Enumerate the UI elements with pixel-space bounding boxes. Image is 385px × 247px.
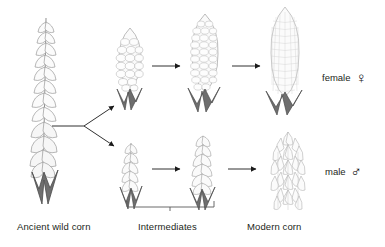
ear-husk-stage2 — [188, 87, 220, 112]
ear-husk-stage1 — [117, 88, 142, 110]
intermediates-bracket — [126, 200, 218, 212]
modern-tassel — [262, 130, 314, 214]
modern-ear — [258, 5, 312, 117]
male-label-text: male — [325, 166, 346, 177]
mars-male-symbol-icon: ♂ — [351, 164, 362, 179]
female-label-text: female — [322, 72, 351, 83]
intermediate-ear-large — [180, 12, 230, 114]
ear-husk-modern — [266, 90, 302, 115]
diagram-canvas: female ♀ — [0, 0, 385, 247]
label-modern-corn: Modern corn — [247, 221, 301, 232]
arrow-male-stage1-to-stage2 — [152, 163, 184, 175]
venus-female-symbol-icon: ♀ — [356, 70, 367, 85]
label-ancient-wild-corn: Ancient wild corn — [17, 221, 91, 232]
intermediate-ear-small — [108, 26, 152, 112]
male-label-group: male ♂ — [325, 164, 362, 179]
female-label-group: female ♀ — [322, 70, 367, 85]
label-intermediates: Intermediates — [138, 221, 197, 232]
arrow-male-stage2-to-modern — [228, 163, 260, 175]
